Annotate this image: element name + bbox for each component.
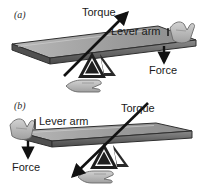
panel-label-b: (b): [14, 100, 26, 112]
lever-arm-label-b: Lever arm: [39, 115, 89, 127]
torque-lever-figure: (a) Torque Lever arm Force: [0, 0, 200, 195]
panel-label-a: (a): [14, 9, 26, 21]
force-label-b: Force: [12, 161, 40, 173]
hand-icon-b: [78, 171, 113, 183]
fulcrum-b: [90, 143, 129, 169]
hand-grip-b: [10, 119, 35, 140]
force-label-a: Force: [149, 64, 177, 76]
panel-b: (b) Lever arm Torque Force: [0, 97, 200, 194]
torque-label-b: Torque: [121, 102, 155, 114]
hand-icon-a: [66, 80, 101, 92]
torque-label-a: Torque: [82, 6, 116, 18]
panel-a: (a) Torque Lever arm Force: [0, 0, 200, 97]
lever-arm-label-a: Lever arm: [111, 25, 161, 37]
